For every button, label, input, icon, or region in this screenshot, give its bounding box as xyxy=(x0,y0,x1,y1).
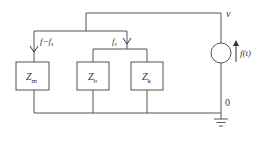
impedance-zm-box xyxy=(16,62,49,90)
node-0-label: 0 xyxy=(225,97,230,108)
right-current-label: fs xyxy=(112,36,118,47)
circuit-diagram: v 0 f(t) f−fs fs Zm Zb Zk xyxy=(0,0,269,145)
ground-icon xyxy=(214,119,228,126)
node-v-label: v xyxy=(226,8,231,19)
left-current-label: f−fs xyxy=(40,36,54,47)
current-source-icon xyxy=(211,43,231,63)
source-arrowhead-icon xyxy=(233,40,239,46)
source-label: f(t) xyxy=(240,48,251,58)
